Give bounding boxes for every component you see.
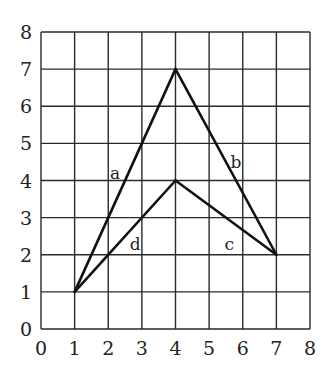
y-tick-label: 2 <box>20 244 32 266</box>
x-tick-label: 0 <box>35 337 47 359</box>
y-tick-label: 1 <box>20 281 32 303</box>
y-tick-label: 0 <box>20 318 32 340</box>
x-tick-label: 7 <box>270 337 282 359</box>
segment-label-c: c <box>225 234 235 254</box>
segment-d <box>75 181 176 292</box>
y-tick-label: 5 <box>20 132 32 154</box>
x-tick-label: 2 <box>102 337 114 359</box>
segment-label-a: a <box>110 163 120 183</box>
x-tick-label: 8 <box>304 337 316 359</box>
x-tick-label: 4 <box>169 337 181 359</box>
x-tick-label: 6 <box>237 337 249 359</box>
y-tick-label: 4 <box>20 170 32 192</box>
coordinate-grid-diagram: 012345678012345678 abcd <box>0 0 335 371</box>
x-tick-label: 1 <box>69 337 81 359</box>
y-tick-label: 3 <box>20 207 32 229</box>
y-tick-label: 8 <box>20 21 32 43</box>
segment-label-d: d <box>130 234 141 254</box>
y-tick-label: 7 <box>20 58 32 80</box>
segment-b <box>176 69 277 255</box>
segment-label-b: b <box>231 152 242 172</box>
x-tick-label: 5 <box>203 337 215 359</box>
x-tick-label: 3 <box>136 337 148 359</box>
y-tick-label: 6 <box>20 95 32 117</box>
